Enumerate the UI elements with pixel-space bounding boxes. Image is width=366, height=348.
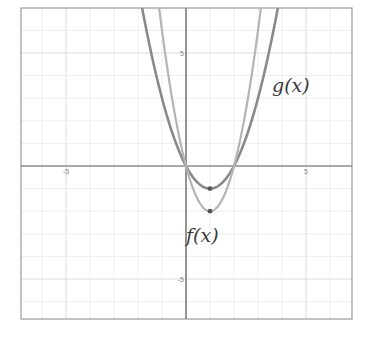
y-tick-label: 5 [180, 50, 184, 57]
label-f: f(x) [186, 224, 219, 246]
vertex-point [208, 209, 213, 214]
vertex-point [208, 186, 213, 191]
x-tick-label: 5 [304, 168, 308, 175]
y-tick-label: -5 [178, 276, 184, 283]
label-g: g(x) [272, 74, 310, 96]
function-graph: -555-5 [0, 0, 366, 348]
x-tick-label: -5 [63, 168, 69, 175]
